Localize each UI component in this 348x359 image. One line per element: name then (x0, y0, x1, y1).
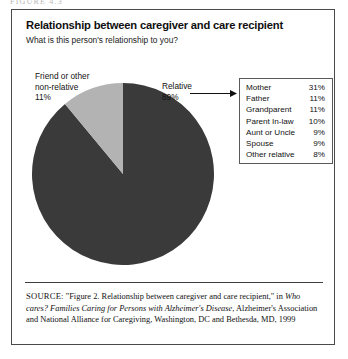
table-row: Spouse 9% (240, 138, 332, 149)
table-row: Mother 31% (240, 82, 332, 93)
figure-question: What is this person's relationship to yo… (26, 35, 322, 46)
table-cell-pct: 10% (309, 116, 325, 127)
table-cell-pct: 31% (309, 82, 325, 93)
table-cell-pct: 11% (309, 93, 325, 104)
source-divider (25, 282, 323, 283)
table-cell-label: Grandparent (246, 104, 291, 115)
table-cell-pct: 9% (313, 127, 325, 138)
table-row: Other relative 8% (240, 149, 332, 160)
page-title: Relationship between caregiver and care … (26, 19, 322, 32)
source-text-part1: "Figure 2. Relationship between caregive… (64, 292, 285, 301)
pie-slice-relative (32, 83, 214, 265)
table-row: Grandparent 11% (240, 104, 332, 115)
callout-relative-label: Relative (162, 81, 192, 92)
table-cell-label: Father (246, 93, 269, 104)
table-cell-label: Aunt or Uncle (246, 127, 295, 138)
table-row: Father 11% (240, 93, 332, 104)
table-cell-pct: 8% (313, 149, 325, 160)
callout-relative: Relative 89% (162, 81, 192, 102)
callout-nonrelative-value: 11% (35, 92, 89, 103)
table-cell-pct: 11% (309, 104, 325, 115)
relationship-breakdown-table: Mother 31% Father 11% Grandparent 11% Pa… (239, 78, 333, 164)
table-cell-label: Spouse (246, 138, 273, 149)
source-label: SOURCE: (26, 291, 64, 301)
figure-frame: Relationship between caregiver and care … (11, 9, 335, 345)
table-row: Parent In-law 10% (240, 116, 332, 127)
table-cell-label: Parent In-law (246, 116, 294, 127)
source-note: SOURCE: "Figure 2. Relationship between … (26, 291, 322, 326)
table-cell-label: Other relative (246, 149, 295, 160)
table-row: Aunt or Uncle 9% (240, 127, 332, 138)
callout-relative-value: 89% (162, 92, 192, 103)
callout-nonrelative-line1: Friend or other (35, 71, 89, 82)
figure-header: Relationship between caregiver and care … (26, 19, 322, 46)
callout-nonrelative-line2: non-relative (35, 82, 89, 93)
arrow-right-icon-svg (190, 89, 238, 98)
table-cell-label: Mother (246, 82, 271, 93)
callout-nonrelative: Friend or other non-relative 11% (35, 71, 89, 103)
clipped-figure-label: FIGURE 4.3 (10, 0, 63, 6)
table-cell-pct: 9% (313, 138, 325, 149)
arrow-right-icon (190, 84, 238, 93)
